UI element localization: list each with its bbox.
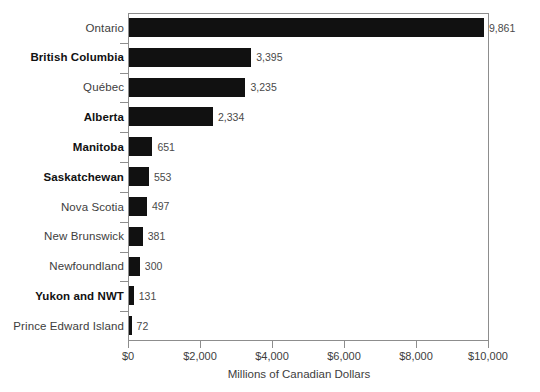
bar-wrapper: 497: [129, 197, 147, 216]
x-axis: Millions of Canadian Dollars $0$2,000$4,…: [0, 341, 540, 392]
bar-row: Yukon and NWT131: [0, 281, 540, 310]
bar-rows-container: Ontario9,861British Columbia3,395Québec3…: [0, 13, 540, 341]
bar-row: British Columbia3,395: [0, 43, 540, 72]
bar: [129, 18, 484, 37]
bar-value-label: 3,235: [250, 81, 276, 93]
x-axis-tick: [272, 341, 273, 348]
bar-wrapper: 553: [129, 167, 149, 186]
category-label: Nova Scotia: [0, 201, 124, 213]
bar: [129, 197, 147, 216]
bar-row: Ontario9,861: [0, 13, 540, 42]
category-label: Québec: [0, 81, 124, 93]
bar: [129, 316, 132, 335]
category-label: Ontario: [0, 22, 124, 34]
x-axis-tick-label: $10,000: [468, 350, 508, 362]
bar-value-label: 553: [154, 171, 172, 183]
category-label: Alberta: [0, 111, 124, 123]
bar-wrapper: 72: [129, 316, 132, 335]
bar-row: New Brunswick381: [0, 222, 540, 251]
category-label: Manitoba: [0, 141, 124, 153]
bar-value-label: 2,334: [218, 111, 244, 123]
bar-value-label: 651: [157, 141, 175, 153]
bar: [129, 107, 213, 126]
bar-value-label: 72: [137, 320, 149, 332]
bar-value-label: 497: [152, 200, 170, 212]
bar: [129, 167, 149, 186]
category-label: Prince Edward Island: [0, 320, 124, 332]
bar-wrapper: 3,395: [129, 48, 251, 67]
category-label: New Brunswick: [0, 230, 124, 242]
bar: [129, 78, 245, 97]
bar-row: Prince Edward Island72: [0, 311, 540, 340]
bar-row: Saskatchewan553: [0, 162, 540, 191]
bar: [129, 48, 251, 67]
x-axis-tick-label: $2,000: [183, 350, 217, 362]
x-axis-title: Millions of Canadian Dollars: [0, 368, 540, 380]
x-axis-tick-label: $8,000: [399, 350, 433, 362]
x-axis-tick-label: $4,000: [255, 350, 289, 362]
bar-value-label: 3,395: [256, 51, 282, 63]
bar-value-label: 381: [148, 230, 166, 242]
x-axis-tick: [488, 341, 489, 348]
bar-wrapper: 2,334: [129, 107, 213, 126]
bar-wrapper: 9,861: [129, 18, 484, 37]
bar-row: Newfoundland300: [0, 252, 540, 281]
bar-row: Alberta2,334: [0, 102, 540, 131]
bar-value-label: 300: [145, 260, 163, 272]
category-label: British Columbia: [0, 51, 124, 63]
bar-row: Nova Scotia497: [0, 192, 540, 221]
x-axis-tick: [128, 341, 129, 348]
bar-wrapper: 300: [129, 257, 140, 276]
category-label: Yukon and NWT: [0, 290, 124, 302]
bar: [129, 137, 152, 156]
bar-wrapper: 381: [129, 227, 143, 246]
x-axis-tick: [416, 341, 417, 348]
bar-wrapper: 131: [129, 286, 134, 305]
x-axis-tick: [200, 341, 201, 348]
bar-chart: Ontario9,861British Columbia3,395Québec3…: [0, 0, 540, 392]
bar: [129, 286, 134, 305]
bar-value-label: 131: [139, 290, 157, 302]
bar: [129, 227, 143, 246]
bar: [129, 257, 140, 276]
x-axis-tick: [344, 341, 345, 348]
bar-row: Manitoba651: [0, 132, 540, 161]
bar-wrapper: 651: [129, 137, 152, 156]
category-label: Saskatchewan: [0, 171, 124, 183]
bar-value-label: 9,861: [489, 22, 515, 34]
x-axis-title-text: Millions of Canadian Dollars: [228, 368, 371, 380]
x-axis-tick-label: $6,000: [327, 350, 361, 362]
category-label: Newfoundland: [0, 260, 124, 272]
bar-wrapper: 3,235: [129, 78, 245, 97]
bar-row: Québec3,235: [0, 73, 540, 102]
x-axis-tick-label: $0: [122, 350, 134, 362]
